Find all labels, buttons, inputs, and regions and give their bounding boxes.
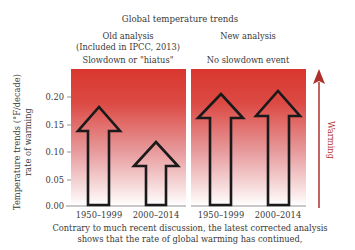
x-label-new-1950-1999: 1950–1999 [196,210,246,220]
caption-line2: shows that the rate of global warming ha… [40,234,340,244]
y-axis-label-line1: Temperature trends (°F/decade) [12,67,23,217]
y-tick-015: 0.15 [40,120,64,130]
y-tick-020: 0.20 [40,92,64,102]
y-tick-000: 0.00 [40,201,64,211]
caption-line1: Contrary to much recent discussion, the … [40,223,340,233]
y-ticks [67,97,71,180]
warming-label: Warming [326,115,336,165]
y-axis-label: Temperature trends (°F/decade) rate of w… [12,67,34,217]
warming-arrow-icon [313,69,325,208]
x-label-new-2000-2014: 2000–2014 [253,210,303,220]
new-analysis-title: New analysis [198,31,298,41]
y-axis-label-line2: rate of warming [23,67,34,217]
y-tick-010: 0.10 [40,147,64,157]
x-label-old-1950-1999: 1950–1999 [74,210,124,220]
chart-title: Global temperature trends [110,14,250,24]
old-analysis-note: Slowdown or "hiatus" [68,55,188,65]
y-tick-005: 0.05 [40,175,64,185]
old-analysis-subtitle: (Included in IPCC, 2013) [68,42,188,52]
old-analysis-title: Old analysis [78,31,178,41]
x-label-old-2000-2014: 2000–2014 [131,210,181,220]
new-analysis-note: No slowdown event [188,55,308,65]
